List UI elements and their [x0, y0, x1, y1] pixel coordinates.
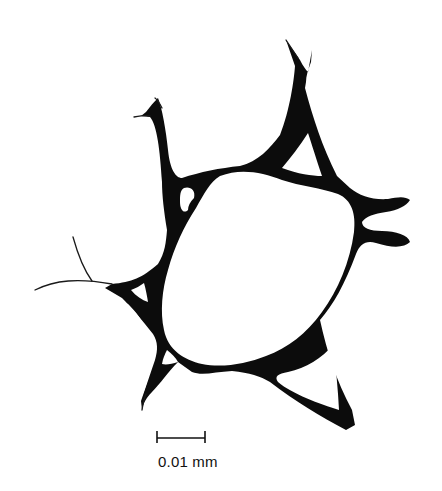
cell-cross-section-illustration: [0, 0, 442, 491]
neighbor-lumen-right: [334, 254, 423, 409]
scale-bar-label: 0.01 mm: [158, 453, 218, 470]
neighbor-lumen-left: [60, 172, 156, 279]
lamella-line-far-left-lower: [35, 281, 112, 290]
lamella-line-top-left-spike: [134, 116, 150, 117]
scale-bar: [157, 431, 205, 443]
neighbor-lumen-lower-left: [40, 300, 151, 396]
